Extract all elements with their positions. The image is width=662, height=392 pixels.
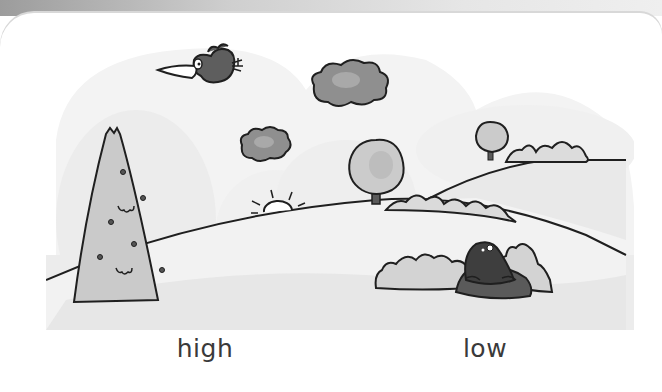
cloud-large-icon bbox=[312, 60, 388, 106]
illustration-scene bbox=[46, 30, 634, 330]
label-low: low bbox=[430, 334, 540, 363]
label-high: high bbox=[150, 334, 260, 363]
cloud-small-icon bbox=[241, 127, 291, 161]
